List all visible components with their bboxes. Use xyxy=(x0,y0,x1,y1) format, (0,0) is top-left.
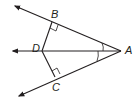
ray-ab xyxy=(15,6,121,51)
segment-db xyxy=(42,22,52,51)
point-label-a: A xyxy=(125,45,132,56)
ray-ac xyxy=(19,51,121,96)
angle-arc-bad xyxy=(102,43,103,51)
segment-dc xyxy=(42,51,55,77)
point-label-b: B xyxy=(51,9,58,20)
geometry-diagram xyxy=(0,0,136,100)
point-label-c: C xyxy=(52,82,60,93)
angle-arc-dac xyxy=(97,51,98,61)
point-label-d: D xyxy=(32,43,40,54)
